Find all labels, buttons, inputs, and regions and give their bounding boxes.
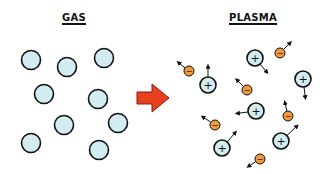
gas-particle <box>55 116 74 135</box>
electron: − <box>236 79 252 95</box>
velocity-arrow-icon <box>260 64 267 72</box>
velocity-arrow-icon <box>285 102 287 111</box>
ion-sign: + <box>276 135 285 148</box>
ion: + <box>295 71 311 98</box>
gas-particle <box>109 114 128 133</box>
velocity-arrow-icon <box>178 62 185 68</box>
gas-particle <box>35 85 54 104</box>
gas-particle <box>95 49 114 68</box>
gas-particle <box>89 90 108 109</box>
gas-particles <box>22 49 128 160</box>
electron-sign: − <box>285 112 292 121</box>
ion-sign: + <box>217 142 226 155</box>
electron-sign: − <box>244 86 251 95</box>
velocity-arrow-icon <box>227 132 235 142</box>
electron: − <box>248 154 265 167</box>
transition-arrow-icon <box>137 84 169 112</box>
velocity-arrow-icon <box>236 79 243 86</box>
gas-particle <box>90 141 109 160</box>
electron: − <box>283 102 293 121</box>
electron: − <box>202 117 220 130</box>
ion-sign: + <box>251 105 260 118</box>
electron-sign: − <box>186 67 193 76</box>
ion: + <box>214 132 236 156</box>
ion-sign: + <box>203 79 212 92</box>
electron-sign: − <box>257 155 264 164</box>
gas-to-plasma-diagram: ++++++−−−−−− <box>0 0 335 174</box>
electron-sign: − <box>277 49 284 58</box>
gas-particle <box>22 134 41 153</box>
velocity-arrow-icon <box>304 87 305 98</box>
gas-particle <box>22 51 41 70</box>
ion-sign: + <box>250 52 259 65</box>
ion: + <box>247 50 267 73</box>
ion-sign: + <box>298 73 307 86</box>
velocity-arrow-icon <box>237 112 248 113</box>
velocity-arrow-icon <box>248 162 256 167</box>
velocity-arrow-icon <box>284 42 291 49</box>
electron: − <box>275 42 291 58</box>
plasma-particles: ++++++−−−−−− <box>178 42 311 166</box>
ion: + <box>273 126 297 149</box>
ion: + <box>237 103 264 119</box>
velocity-arrow-icon <box>202 117 210 123</box>
velocity-arrow-icon <box>287 126 298 136</box>
gas-particle <box>58 58 77 77</box>
electron: − <box>178 62 194 76</box>
electron-sign: − <box>212 121 219 130</box>
ion: + <box>200 66 216 93</box>
